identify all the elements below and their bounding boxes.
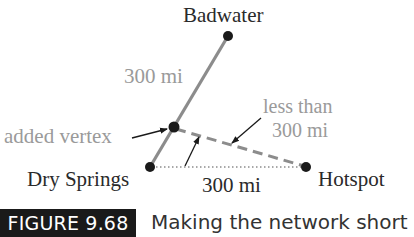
label-edge-badwater-dry: 300 mi (124, 66, 183, 87)
node-added-vertex (169, 122, 180, 133)
perpendicular-arrow (185, 137, 199, 166)
node-hotspot (301, 162, 311, 172)
node-dry-springs (145, 162, 155, 172)
network-diagram (0, 0, 414, 237)
label-less-than-2: 300 mi (272, 120, 328, 140)
label-edge-dry-hotspot: 300 mi (202, 175, 261, 196)
less-than-arrow (232, 118, 261, 143)
label-hotspot: Hotspot (318, 169, 385, 190)
label-less-than-1: less than (263, 96, 332, 116)
figure-caption: Making the network short (151, 210, 408, 234)
node-badwater (223, 31, 233, 41)
edge-dry-springs-badwater (150, 36, 228, 167)
label-badwater: Badwater (183, 5, 263, 26)
figure-label: FIGURE 9.68 (0, 209, 136, 237)
added-vertex-arrow (132, 129, 167, 138)
label-dry-springs: Dry Springs (27, 169, 129, 190)
label-added-vertex: added vertex (4, 126, 112, 147)
